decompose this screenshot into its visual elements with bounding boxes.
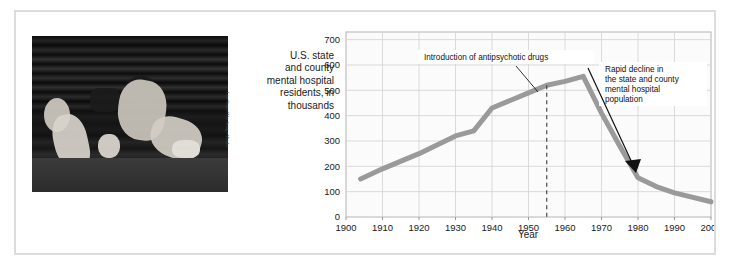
x-axis-label: Year <box>518 229 539 240</box>
y-tick-label-100: 100 <box>324 186 340 197</box>
callout-decline-line-4: population <box>605 95 643 104</box>
x-tick-label-1990: 1990 <box>664 222 685 233</box>
y-tick-label-400: 400 <box>324 110 340 121</box>
callout-introduction-text: Introduction of antipsychotic drugs <box>424 53 548 62</box>
callout-decline-line-1: Rapid decline in <box>605 65 664 74</box>
y-tick-label-300: 300 <box>324 135 340 146</box>
figure-panel: Les Stone/The Image Works U.S. state and… <box>14 10 716 255</box>
line-chart: 0100200300400500600700 19001910192019301… <box>316 26 714 241</box>
x-tick-label-2000: 2000 <box>700 222 714 233</box>
photo-shape-dark-a <box>90 88 120 112</box>
photo-shape-bundle <box>98 134 120 158</box>
callout-decline-line-3: mental hospital <box>605 85 660 94</box>
y-tick-label-700: 700 <box>324 34 340 45</box>
photo-shape-shoe <box>172 140 200 158</box>
photo-sidewalk <box>32 158 228 192</box>
x-tick-label-1980: 1980 <box>627 222 648 233</box>
x-tick-label-1930: 1930 <box>445 222 466 233</box>
x-tick-label-1960: 1960 <box>554 222 575 233</box>
y-tick-labels: 0100200300400500600700 <box>324 34 340 222</box>
photograph <box>32 36 228 192</box>
callout-decline-line-2: the state and county <box>605 75 680 84</box>
y-tick-label-0: 0 <box>335 211 340 222</box>
x-tick-label-1940: 1940 <box>481 222 502 233</box>
y-tick-label-200: 200 <box>324 161 340 172</box>
y-tick-label-500: 500 <box>324 85 340 96</box>
x-tick-label-1900: 1900 <box>335 222 356 233</box>
chart-svg: 0100200300400500600700 19001910192019301… <box>316 26 714 241</box>
y-tick-label-600: 600 <box>324 59 340 70</box>
x-tick-label-1970: 1970 <box>591 222 612 233</box>
photo-block: Les Stone/The Image Works <box>32 36 244 192</box>
photo-credit: Les Stone/The Image Works <box>220 92 230 188</box>
x-tick-label-1910: 1910 <box>372 222 393 233</box>
x-tick-label-1920: 1920 <box>408 222 429 233</box>
